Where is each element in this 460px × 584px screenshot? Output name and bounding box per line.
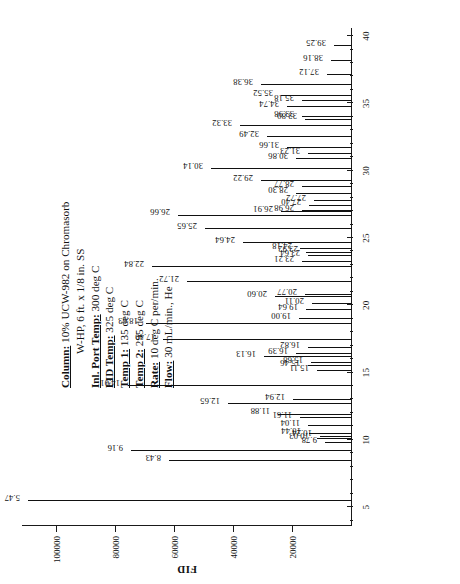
peak [187,281,352,282]
y-tick [56,526,57,532]
peak [308,365,352,366]
x-tick-minor [350,345,354,346]
x-tick-minor [350,224,354,225]
peak [317,438,352,439]
peak-label: 24.18 [273,241,293,251]
peak [293,399,352,400]
peak [264,356,352,357]
x-tick-major [347,506,353,507]
peak [287,106,352,107]
chromatogram-page: Column: 10% UCW-982 on ChromasorbW-HP, 6… [0,0,460,584]
y-tick-label: 60000 [170,536,180,559]
peak [28,500,352,501]
x-tick-minor [350,49,354,50]
peak-label: 24.64 [215,235,235,245]
peak-label: 33.98 [274,109,294,119]
signal-axis [22,525,352,526]
peak-label: 22.84 [124,259,144,269]
peak [152,266,352,267]
peak [302,210,352,211]
peak [300,248,352,249]
peak [308,255,352,256]
x-tick-label: 5 [361,505,371,510]
peak [308,425,352,426]
peak-label: 16.82 [280,340,300,350]
peak [211,168,352,169]
peak [314,200,352,201]
peak [302,261,352,262]
peak-label: 33.32 [212,118,232,128]
plot-area: FID 20000400006000080000100000 510152025… [22,28,352,526]
peak-label: 18.63 [118,316,138,326]
peak [302,116,352,117]
peak [305,294,352,295]
peak-label: 21.72 [159,274,179,284]
y-tick-label: 80000 [111,536,121,559]
peak [308,153,352,154]
peak [306,252,352,253]
x-tick-label: 30 [361,166,371,175]
peak [163,339,352,340]
peak-label: 11.61 [273,410,293,420]
peak [309,205,352,206]
peak-label: 12.94 [265,392,285,402]
peak [331,60,352,61]
peak [302,100,352,101]
peak-label: 38.16 [304,53,324,63]
peak-label: 16.13 [236,349,256,359]
x-tick-minor [350,452,354,453]
peak-label: 35.18 [274,93,294,103]
x-tick-minor [350,129,354,130]
peak-label: 14.01 [100,378,120,388]
x-tick-minor [350,143,354,144]
x-tick-minor [350,197,354,198]
peak-label: 20.60 [248,289,268,299]
peak [311,362,352,363]
peak [305,119,352,120]
peak [334,45,352,46]
peak-label: 8.43 [146,453,161,463]
peak-label: 17.40 [136,332,156,342]
peak-label: 31.23 [280,146,300,156]
x-tick-minor [350,156,354,157]
peak-label: 30.14 [183,161,203,171]
y-tick-label: 100000 [52,536,62,563]
y-tick-label: 20000 [288,536,298,559]
peak [309,433,352,434]
peak-label: 27.72 [286,193,306,203]
peak-label: 20.11 [285,296,305,306]
y-tick [115,526,116,532]
y-tick [292,526,293,532]
peak [128,385,352,386]
y-tick [233,526,234,532]
x-tick-label: 40 [361,31,371,40]
x-tick-minor [350,479,354,480]
peak [146,323,352,324]
x-tick-major [347,35,353,36]
x-tick-major [347,304,353,305]
y-tick-label: 40000 [229,536,239,559]
peak [308,347,352,348]
peak-label: 32.49 [239,129,259,139]
x-tick-major [347,372,353,373]
peak-label: 11.88 [251,406,271,416]
peak [327,74,352,75]
peak-label: 26.91 [253,204,273,214]
x-tick-minor [350,183,354,184]
peak-label: 15.68 [283,355,303,365]
peak-label: 9.16 [108,443,123,453]
y-axis-title: FID [177,564,197,576]
x-tick-minor [350,75,354,76]
peak-label: 28.77 [274,179,294,189]
peak-label: 35.52 [253,88,273,98]
peak [243,242,352,243]
x-tick-major [347,237,353,238]
peak-label: 5.47 [4,493,19,503]
x-tick-minor [350,264,354,265]
peak-label: 36.38 [233,77,253,87]
peak [306,309,352,310]
peak [296,158,352,159]
peak [299,318,352,319]
x-tick-minor [350,520,354,521]
peak-label: 25.65 [177,221,197,231]
